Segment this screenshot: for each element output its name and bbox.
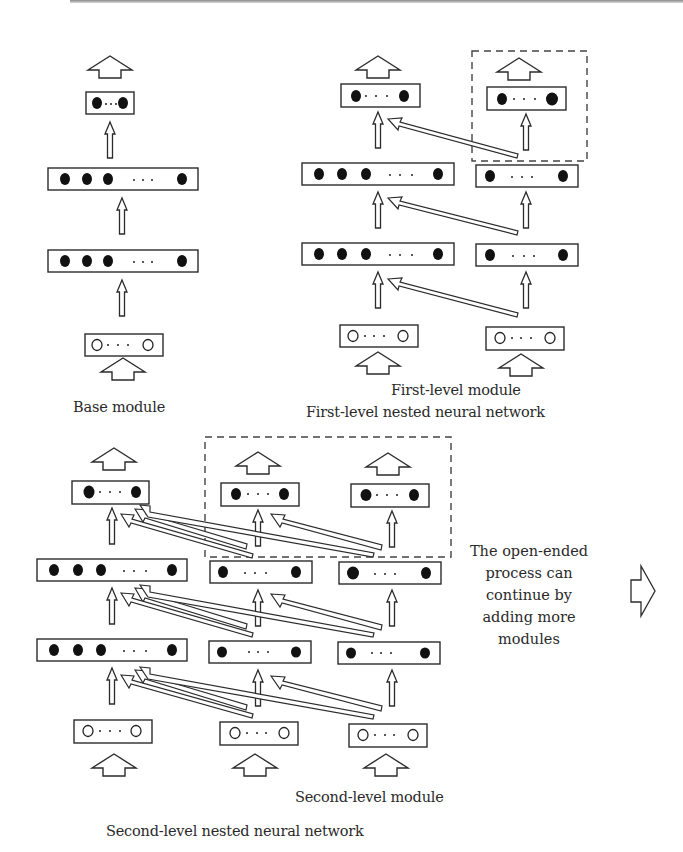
connection-arrow-icon xyxy=(107,588,117,624)
hidden-layer-2 xyxy=(37,559,187,581)
connection-arrow-icon xyxy=(387,511,397,547)
input-layer xyxy=(85,334,163,356)
output-arrow-icon xyxy=(356,56,400,78)
output-arrow-icon xyxy=(88,56,132,78)
connection-arrow-icon xyxy=(117,198,127,234)
note-line: modules xyxy=(469,628,589,650)
module-input-layer xyxy=(220,722,298,745)
output-arrow-icon xyxy=(497,58,541,80)
input-arrow-icon xyxy=(101,358,145,380)
connection-arrow-icon xyxy=(253,590,263,626)
output-arrow-icon xyxy=(236,452,280,474)
connection-arrow-icon xyxy=(253,510,263,546)
output-arrow-icon xyxy=(366,453,410,475)
connection-arrow-icon xyxy=(521,192,531,228)
continuation-note: The open-ended process can continue by a… xyxy=(469,540,589,650)
input-layer xyxy=(74,720,152,743)
second-level-network xyxy=(37,437,451,776)
note-line: continue by xyxy=(469,584,589,606)
nested-neural-network-diagram xyxy=(0,0,683,852)
first-level-network xyxy=(302,51,587,376)
connection-arrow-icon xyxy=(373,192,383,228)
connection-arrow-icon xyxy=(521,114,531,150)
continue-arrow-icon xyxy=(631,566,655,616)
input-arrow-icon xyxy=(356,352,400,374)
hidden-layer-1 xyxy=(48,250,198,272)
module-hidden-layer-2 xyxy=(210,561,312,583)
output-layer xyxy=(72,481,149,504)
module-hidden-layer-2 xyxy=(339,562,441,584)
connection-arrow-icon xyxy=(253,670,263,706)
module-input-layer xyxy=(349,724,427,747)
first-level-module-label: First-level module xyxy=(391,382,521,398)
base-module-label: Base module xyxy=(73,399,165,415)
connection-arrow-icon xyxy=(107,508,117,544)
hidden-layer-2 xyxy=(302,163,454,185)
module-input-layer xyxy=(486,327,564,350)
connection-arrow-icon xyxy=(373,272,383,308)
connection-arrow-icon xyxy=(521,272,531,308)
note-line: adding more xyxy=(469,606,589,628)
input-arrow-icon xyxy=(92,754,136,776)
input-arrow-icon xyxy=(233,754,277,776)
base-module xyxy=(48,56,198,380)
first-level-network-label: First-level nested neural network xyxy=(306,404,545,420)
module-hidden-layer-1 xyxy=(476,244,578,266)
module-hidden-layer-1 xyxy=(338,642,440,664)
connection-arrow-icon xyxy=(387,590,397,626)
second-level-module-label: Second-level module xyxy=(295,789,444,805)
note-line: process can xyxy=(469,562,589,584)
module-hidden-layer-1 xyxy=(209,641,311,663)
output-layer xyxy=(86,92,134,114)
connection-arrow-icon xyxy=(117,280,127,316)
module-hidden-layer-2 xyxy=(476,165,578,187)
hidden-layer-1 xyxy=(37,639,187,661)
note-line: The open-ended xyxy=(469,540,589,562)
output-layer xyxy=(341,84,420,107)
connection-arrow-icon xyxy=(373,112,383,148)
connection-arrow-icon xyxy=(387,670,397,706)
output-arrow-icon xyxy=(92,448,136,470)
lateral-arrows xyxy=(121,505,382,719)
lateral-arrows xyxy=(388,118,518,317)
connection-arrow-icon xyxy=(107,668,117,704)
connection-arrow-icon xyxy=(105,122,115,158)
hidden-layer-2 xyxy=(48,168,198,190)
second-level-network-label: Second-level nested neural network xyxy=(106,823,364,839)
module-output-layer xyxy=(351,484,429,507)
hidden-layer-1 xyxy=(302,243,454,265)
module-output-layer xyxy=(221,483,299,506)
input-arrow-icon xyxy=(499,354,543,376)
module-output-layer xyxy=(487,87,566,110)
input-arrow-icon xyxy=(364,754,408,776)
input-layer xyxy=(340,325,418,347)
